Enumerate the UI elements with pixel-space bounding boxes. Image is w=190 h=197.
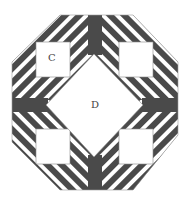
corner-square-bottom-right xyxy=(119,129,153,164)
label-c: C xyxy=(48,52,56,63)
corner-square-bottom-left xyxy=(36,129,70,164)
quilt-diagram: C D xyxy=(0,0,190,197)
corner-square-top-right xyxy=(119,42,153,77)
label-d: D xyxy=(91,99,99,110)
